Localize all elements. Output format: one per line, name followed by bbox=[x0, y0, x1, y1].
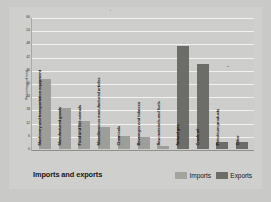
category-label: Chemicals bbox=[118, 126, 123, 146]
bar bbox=[157, 146, 169, 149]
bar-cell: Raw materials and fuels bbox=[153, 18, 173, 149]
bar-cell: Beverages and tobacco bbox=[134, 18, 154, 149]
plot-area: 60544842363024181260 Machinery and trans… bbox=[31, 18, 254, 151]
y-axis-tick-label: 0 bbox=[28, 148, 30, 152]
category-label: Natural gas bbox=[177, 125, 182, 146]
chart-figure: Percentage of total 60544842363024181260… bbox=[9, 7, 262, 189]
y-axis-tick-label: 30 bbox=[26, 82, 30, 86]
category-label: Manufactured goods bbox=[58, 108, 63, 146]
y-axis-tick-label: 60 bbox=[26, 16, 30, 20]
bar-cell: Food and live animals bbox=[74, 18, 94, 149]
legend-swatch bbox=[175, 172, 187, 179]
bar-cell: Manufactured goods bbox=[55, 18, 75, 149]
category-label: Other bbox=[236, 136, 241, 146]
y-axis-tick-label: 6 bbox=[28, 135, 30, 139]
bar-cell: Chemicals bbox=[114, 18, 134, 149]
chart-footer: Imports and exports ImportsExports bbox=[31, 155, 254, 181]
bar-cell: Machinery and transportation equipment bbox=[35, 18, 55, 149]
y-axis-tick-label: 36 bbox=[26, 69, 30, 73]
y-axis-tick-label: 42 bbox=[26, 56, 30, 60]
bar-cell: Miscellaneous manufactured articles bbox=[94, 18, 114, 149]
y-axis-tick-label: 18 bbox=[26, 109, 30, 113]
legend-label: Imports bbox=[190, 172, 211, 179]
category-label: Raw materials and fuels bbox=[157, 102, 162, 146]
y-axis-tick-label: 12 bbox=[26, 122, 30, 126]
chart-title: Imports and exports bbox=[33, 171, 102, 179]
y-axis-tick-label: 54 bbox=[26, 29, 30, 33]
bar-cell: Natural gas bbox=[173, 18, 193, 149]
category-label: Machinery and transportation equipment bbox=[39, 70, 44, 146]
legend-item: Imports bbox=[175, 172, 211, 179]
bar-cell: Crude oil bbox=[193, 18, 213, 149]
legend-item: Exports bbox=[216, 172, 252, 179]
y-axis-tick-label: 24 bbox=[26, 95, 30, 99]
bar-cell: Other bbox=[232, 18, 252, 149]
artifact-speck bbox=[227, 66, 228, 67]
category-label: Food and live animals bbox=[78, 105, 83, 146]
category-label: Crude oil bbox=[197, 129, 202, 146]
category-label: Petroleum products bbox=[216, 109, 221, 146]
legend-swatch bbox=[216, 172, 228, 179]
artifact-speck bbox=[110, 10, 111, 11]
legend-label: Exports bbox=[230, 172, 252, 179]
category-label: Beverages and tobacco bbox=[137, 102, 142, 146]
bar-cell: Petroleum products bbox=[213, 18, 233, 149]
plot-area-wrapper: Percentage of total 60544842363024181260… bbox=[31, 18, 254, 151]
chart-legend: ImportsExports bbox=[175, 172, 252, 179]
bar-group: Machinery and transportation equipmentMa… bbox=[33, 18, 254, 149]
y-axis-tick-label: 48 bbox=[26, 43, 30, 47]
category-label: Miscellaneous manufactured articles bbox=[98, 78, 103, 146]
